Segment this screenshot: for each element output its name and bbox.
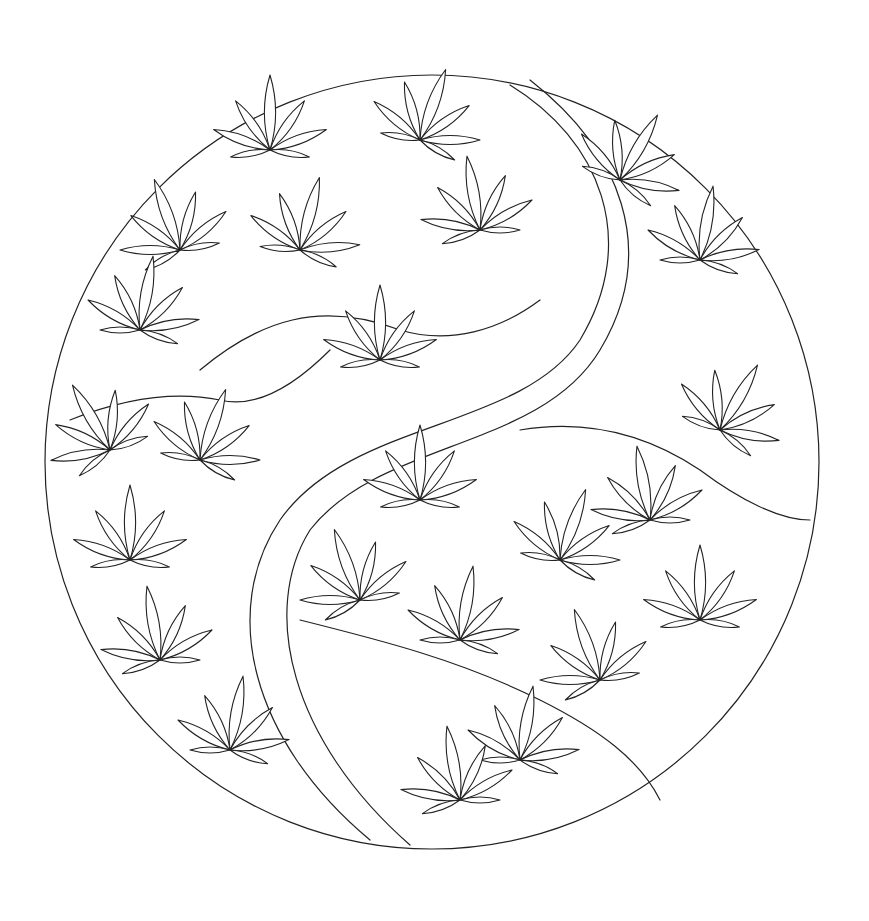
leaf bbox=[520, 590, 658, 709]
leaf bbox=[322, 285, 438, 370]
s-curve-band-right bbox=[287, 80, 629, 845]
leaf bbox=[565, 86, 708, 217]
leaf bbox=[641, 176, 770, 280]
leaf bbox=[390, 716, 519, 820]
leaf bbox=[142, 370, 280, 489]
leaf bbox=[22, 356, 165, 487]
leaf bbox=[362, 425, 478, 510]
leaf bbox=[72, 485, 188, 570]
leaf bbox=[642, 545, 758, 630]
leaf bbox=[241, 163, 375, 275]
leaf bbox=[580, 436, 709, 540]
leaf bbox=[362, 50, 500, 169]
leaf bbox=[171, 666, 300, 770]
leaf bbox=[401, 556, 530, 660]
leaf bbox=[212, 75, 328, 160]
leaf bbox=[280, 510, 418, 629]
leaf bbox=[665, 336, 808, 467]
leaf bbox=[90, 576, 219, 680]
leaf-group bbox=[22, 50, 807, 820]
yin-yang-leaf-artwork bbox=[0, 0, 869, 921]
leaf bbox=[410, 146, 539, 250]
